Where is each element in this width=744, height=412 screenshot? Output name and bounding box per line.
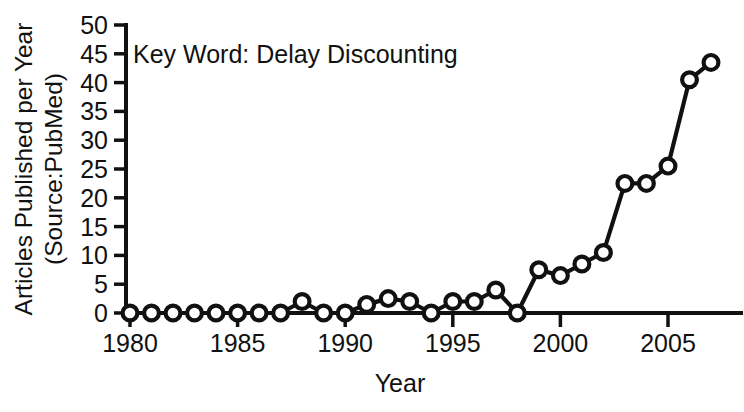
x-tick-label-2000: 2000 — [533, 329, 589, 357]
data-point-2000 — [553, 268, 568, 283]
y-tick-label-25: 25 — [80, 155, 108, 183]
data-point-2006 — [682, 72, 697, 87]
data-point-1995 — [445, 294, 460, 309]
data-point-1988 — [295, 294, 310, 309]
y-tick-label-45: 45 — [80, 40, 108, 68]
y-axis-title-line2: (Source:PubMed) — [40, 73, 67, 265]
x-tick-label-1995: 1995 — [425, 329, 481, 357]
chart-annotation-keyword: Key Word: Delay Discounting — [133, 40, 458, 68]
data-point-1983 — [187, 306, 202, 321]
y-tick-label-50: 50 — [80, 11, 108, 39]
publications-line-chart: 0 5 10 15 20 25 30 35 40 45 50 1980 1985… — [0, 0, 744, 412]
y-tick-label-0: 0 — [94, 299, 108, 327]
data-point-2007 — [704, 55, 719, 70]
x-axis-title: Year — [375, 369, 426, 397]
y-tick-label-40: 40 — [80, 69, 108, 97]
y-tick-label-30: 30 — [80, 126, 108, 154]
data-point-1996 — [467, 294, 482, 309]
x-tick-label-2005: 2005 — [640, 329, 696, 357]
y-tick-label-35: 35 — [80, 97, 108, 125]
data-point-2003 — [618, 176, 633, 191]
x-tick-label-1990: 1990 — [317, 329, 373, 357]
y-tick-label-15: 15 — [80, 213, 108, 241]
data-point-1986 — [252, 306, 267, 321]
data-point-1980 — [123, 306, 138, 321]
data-point-2001 — [575, 257, 590, 272]
y-axis-title-line1: Articles Published per Year — [10, 23, 37, 316]
data-point-1985 — [230, 306, 245, 321]
x-tick-label-1985: 1985 — [210, 329, 266, 357]
data-point-1998 — [510, 306, 525, 321]
y-tick-label-10: 10 — [80, 241, 108, 269]
data-point-1990 — [338, 306, 353, 321]
y-tick-label-5: 5 — [94, 270, 108, 298]
x-tick-label-1980: 1980 — [102, 329, 158, 357]
data-point-1992 — [381, 291, 396, 306]
data-point-1993 — [402, 294, 417, 309]
data-point-1981 — [144, 306, 159, 321]
data-point-2005 — [661, 159, 676, 174]
data-point-1994 — [424, 306, 439, 321]
y-tick-label-20: 20 — [80, 184, 108, 212]
data-point-1989 — [316, 306, 331, 321]
data-point-2004 — [639, 176, 654, 191]
data-point-1984 — [209, 306, 224, 321]
chart-page: 0 5 10 15 20 25 30 35 40 45 50 1980 1985… — [0, 0, 744, 412]
data-point-2002 — [596, 245, 611, 260]
data-point-1997 — [488, 283, 503, 298]
data-point-1999 — [531, 262, 546, 277]
data-point-1987 — [273, 306, 288, 321]
data-point-1982 — [166, 306, 181, 321]
data-point-1991 — [359, 297, 374, 312]
